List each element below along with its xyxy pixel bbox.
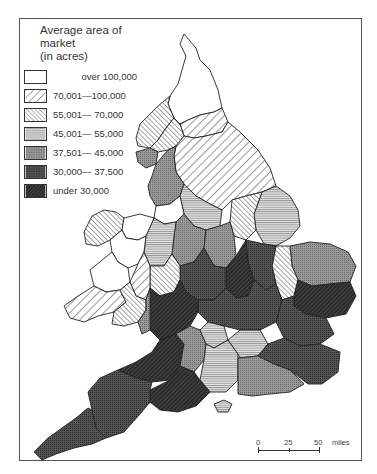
legend-item-over-100000: over 100,000 <box>24 67 144 86</box>
swatch-black-diagonal <box>24 184 47 198</box>
scale-tick <box>319 447 320 453</box>
scale-label-50: 50 <box>314 438 322 447</box>
legend-item-30000-37500: 30,000— 37,500 <box>24 162 144 181</box>
scale-bar: 0 25 50 miles <box>256 438 366 458</box>
legend-item-under-30000: under 30,000 <box>24 181 144 200</box>
legend-title: Average area of market (in acres) <box>40 24 144 63</box>
legend-label: over 100,000 <box>47 71 137 82</box>
scale-tick <box>258 447 259 453</box>
legend-label: 55,001— 70,000 <box>53 109 123 120</box>
scale-label-25: 25 <box>284 438 292 447</box>
legend-label: under 30,000 <box>53 185 109 196</box>
legend-label: 30,000— 37,500 <box>53 166 123 177</box>
legend-item-70001-100000: 70,001—100,000 <box>24 86 144 105</box>
swatch-grey-crosshatch <box>24 146 47 160</box>
region-norfolk <box>290 242 356 286</box>
scale-tick <box>289 448 290 452</box>
scale-label-0: 0 <box>256 438 260 447</box>
legend-title-line2: (in acres) <box>40 50 144 63</box>
region-isle-of-wight <box>214 400 232 412</box>
legend-label: 37,501— 45,000 <box>53 147 123 158</box>
legend-label: 70,001—100,000 <box>53 90 126 101</box>
scale-unit: miles <box>332 438 350 447</box>
legend-label: 45,001— 55,000 <box>53 128 123 139</box>
swatch-white <box>24 70 47 84</box>
legend: Average area of market (in acres) over 1… <box>24 24 144 200</box>
swatch-horizontal-lines <box>24 127 47 141</box>
region-northumberland <box>168 34 222 124</box>
swatch-wide-diagonal <box>24 89 47 103</box>
swatch-fine-diagonal <box>24 108 47 122</box>
legend-item-37501-45000: 37,501— 45,000 <box>24 143 144 162</box>
legend-title-line1: Average area of market <box>40 24 144 50</box>
legend-item-45001-55000: 45,001— 55,000 <box>24 124 144 143</box>
swatch-dark-crosshatch <box>24 165 47 179</box>
region-devon <box>88 370 152 438</box>
region-hampshire <box>200 340 238 392</box>
legend-item-55001-70000: 55,001— 70,000 <box>24 105 144 124</box>
